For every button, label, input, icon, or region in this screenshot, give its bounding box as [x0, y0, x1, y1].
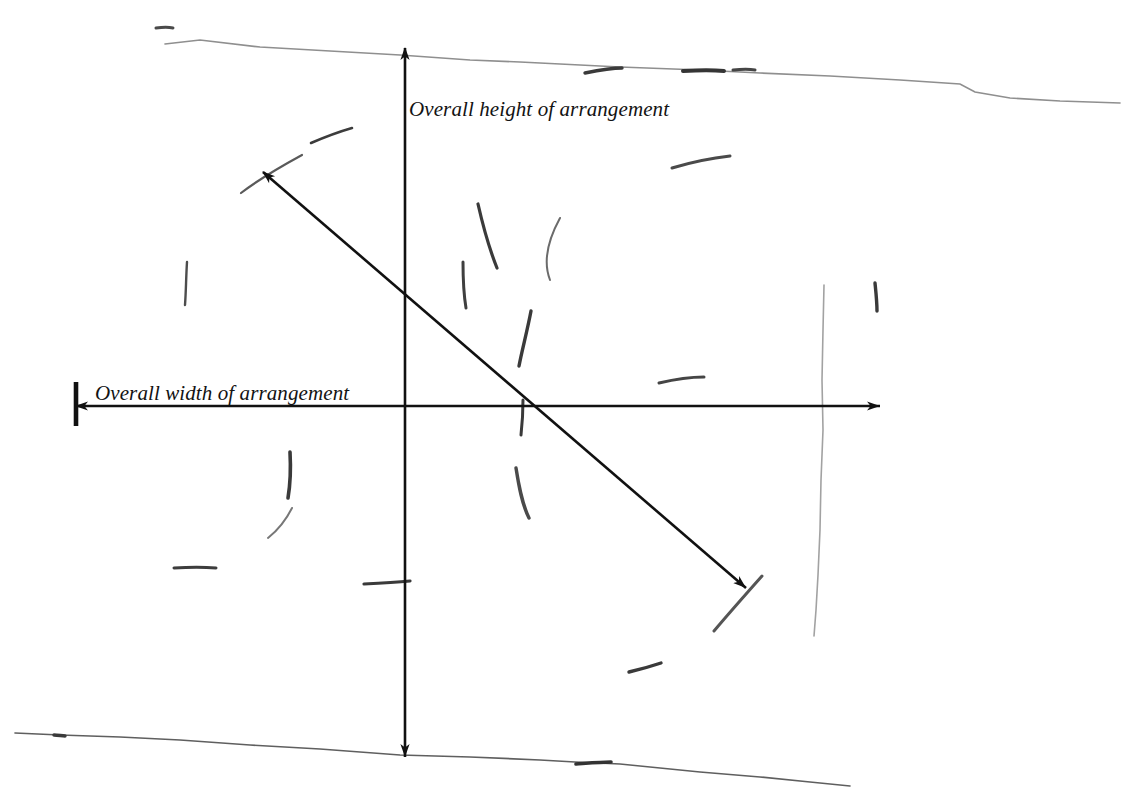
needle-stroke: [156, 27, 173, 28]
needle-stroke: [478, 204, 497, 268]
needle-stroke: [875, 283, 877, 311]
needle-stroke: [629, 663, 661, 672]
needle-stroke: [733, 69, 755, 70]
needle-stroke: [185, 262, 187, 305]
right-vertical-pencil-line: [814, 285, 824, 636]
needle-stroke: [463, 262, 466, 308]
needle-stroke: [659, 377, 704, 383]
needle-stroke: [516, 468, 529, 518]
overall-height-label: Overall height of arrangement: [409, 97, 669, 122]
needle-stroke: [311, 128, 352, 143]
needle-stroke: [683, 70, 724, 71]
lower-horizon-line: [15, 733, 850, 786]
needle-stroke: [547, 218, 560, 280]
upper-horizon-line: [165, 40, 1120, 103]
needle-stroke: [174, 567, 216, 568]
horizon-lines-group: [15, 40, 1120, 786]
needle-stroke: [54, 735, 65, 736]
overall-width-label: Overall width of arrangement: [95, 381, 349, 406]
needle-stroke: [576, 762, 611, 764]
needle-stroke: [268, 508, 292, 538]
needle-stroke: [519, 311, 531, 366]
needle-stroke: [672, 156, 730, 168]
needle-stroke: [364, 581, 410, 584]
hand-drawn-arrangement-figure: Overall height of arrangement Overall wi…: [0, 0, 1121, 790]
needle-stroke: [241, 155, 302, 193]
needle-stroke: [714, 576, 762, 631]
needle-stroke: [585, 68, 622, 73]
needle-stroke: [288, 452, 290, 498]
